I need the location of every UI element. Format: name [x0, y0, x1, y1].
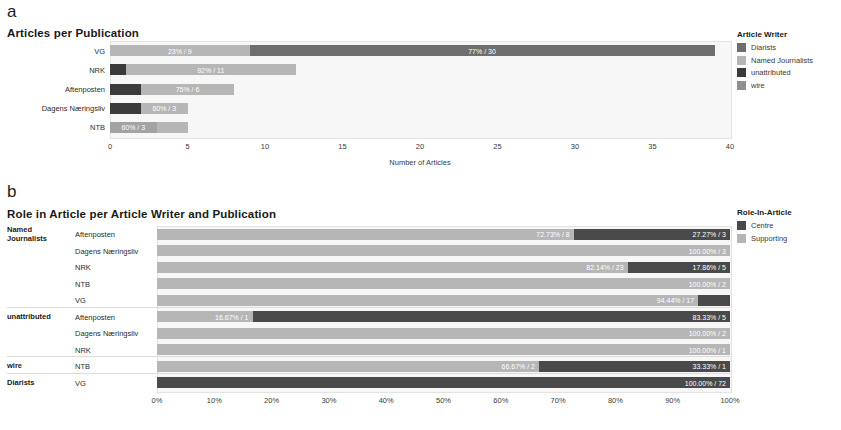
panel-b-group-separator [7, 373, 730, 374]
panel-b-x-tick-label: 70% [551, 396, 566, 405]
panel-b-bar-segment[interactable]: 66.67% / 2 [157, 361, 539, 372]
panel-a-legend-swatch-icon [737, 68, 746, 77]
panel-a-legend-swatch-icon [737, 43, 746, 52]
panel-b-bar-segment-label: 100.00% / 1 [689, 346, 726, 353]
panel-a-bar-segment[interactable] [110, 103, 141, 114]
panel-b-group-label: unattributed [7, 312, 51, 321]
panel-a-bar-row[interactable]: 60% / 3 [110, 103, 730, 114]
panel-a-x-tick-label: 25 [493, 142, 501, 151]
panel-b-bar-segment[interactable]: 27.27% / 3 [574, 229, 730, 240]
panel-b-bar-segment[interactable]: 16.67% / 1 [157, 311, 253, 322]
panel-a-legend-item[interactable]: Named Journalists [737, 56, 813, 65]
panel-b-bar-row[interactable]: 100.00% / 3 [157, 245, 730, 256]
panel-a-legend-label: unattributed [751, 68, 791, 77]
panel-b-bar-segment-label: 82.14% / 23 [586, 264, 623, 271]
panel-a-bar-row[interactable]: 23% / 977% / 30 [110, 45, 730, 56]
panel-a-bar-segment-label: 92% / 11 [126, 66, 297, 73]
panel-a-bar-segment[interactable]: 60% / 3 [141, 103, 188, 114]
panel-b-legend-item[interactable]: Supporting [737, 234, 792, 243]
panel-a-legend-label: Named Journalists [751, 56, 813, 65]
panel-b-bar-segment-label: 27.27% / 3 [693, 231, 726, 238]
panel-b-publication-label: NTB [75, 362, 90, 371]
panel-b-bar-segment[interactable]: 100.00% / 2 [157, 278, 730, 289]
panel-b-group-separator [7, 356, 730, 357]
panel-a-bar-segment[interactable]: 75% / 6 [141, 84, 234, 95]
panel-a-x-tick-label: 30 [571, 142, 579, 151]
panel-b-bar-segment[interactable]: 100.00% / 72 [157, 377, 730, 388]
panel-b-bar-segment[interactable]: 82.14% / 23 [157, 262, 628, 273]
panel-b-bar-row[interactable]: 100.00% / 72 [157, 377, 730, 388]
panel-b-publication-label: NRK [75, 263, 91, 272]
panel-b-bar-segment[interactable]: 94.44% / 17 [157, 295, 698, 306]
panel-b-bar-segment[interactable]: 100.00% / 3 [157, 245, 730, 256]
panel-b-bar-segment[interactable]: 100.00% / 2 [157, 328, 730, 339]
panel-b-publication-label: Dagens Næringsliv [75, 329, 138, 338]
panel-b-legend-label: Centre [751, 221, 774, 230]
panel-a-bar-row[interactable]: 75% / 6 [110, 84, 730, 95]
panel-a-bar-segment[interactable]: 92% / 11 [126, 64, 297, 75]
panel-b-x-tick-label: 90% [665, 396, 680, 405]
panel-b-legend-swatch-icon [737, 221, 746, 230]
panel-a-x-axis-label: Number of Articles [110, 158, 730, 167]
panel-a-bar-segment[interactable] [110, 64, 126, 75]
panel-a-bar-segment[interactable]: 77% / 30 [250, 45, 715, 56]
panel-b-bar-segment-label: 100.00% / 3 [689, 247, 726, 254]
panel-a-legend: Article Writer DiaristsNamed Journalists… [737, 30, 813, 93]
panel-b-bar-row[interactable]: 66.67% / 233.33% / 1 [157, 361, 730, 372]
panel-b-bar-segment[interactable]: 33.33% / 1 [539, 361, 730, 372]
panel-b-group-label: NamedJournalists [7, 225, 47, 243]
panel-b-bar-segment-label: 66.67% / 2 [502, 363, 535, 370]
panel-b-bar-segment[interactable] [698, 295, 730, 306]
panel-b-bar-row[interactable]: 16.67% / 183.33% / 5 [157, 311, 730, 322]
panel-b-publication-label: NRK [75, 345, 91, 354]
panel-a-bar-segment[interactable]: 60% / 3 [110, 122, 157, 133]
panel-b-group-label: Diarists [7, 378, 35, 387]
panel-b-bar-segment[interactable]: 72.73% / 8 [157, 229, 574, 240]
panel-a-category-label: NRK [0, 65, 105, 74]
panel-a-bar-segment-label: 23% / 9 [110, 47, 250, 54]
panel-a-legend-label: wire [751, 81, 765, 90]
panel-b-bar-row[interactable]: 94.44% / 17 [157, 295, 730, 306]
panel-a-legend-item[interactable]: Diarists [737, 43, 813, 52]
panel-b-bar-row[interactable]: 100.00% / 1 [157, 344, 730, 355]
panel-b-bar-segment-label: 100.00% / 2 [689, 280, 726, 287]
panel-a-bar-segment[interactable] [157, 122, 188, 133]
panel-a-category-label: NTB [0, 123, 105, 132]
panel-a-category-label: VG [0, 46, 105, 55]
panel-b-bar-segment-label: 33.33% / 1 [693, 363, 726, 370]
panel-b-bar-segment-label: 16.67% / 1 [215, 313, 248, 320]
panel-a-bar-row[interactable]: 92% / 11 [110, 64, 730, 75]
panel-b: b Role in Article per Article Writer and… [0, 178, 841, 430]
panel-b-bar-segment-label: 100.00% / 72 [685, 379, 726, 386]
panel-a-category-label: Aftenposten [0, 85, 105, 94]
panel-b-legend-label: Supporting [751, 234, 787, 243]
panel-a-bar-segment-label: 77% / 30 [250, 47, 715, 54]
panel-b-publication-label: VG [75, 296, 86, 305]
panel-a-legend-label: Diarists [751, 43, 776, 52]
panel-a-x-tick-label: 5 [185, 142, 189, 151]
panel-b-bar-segment[interactable]: 100.00% / 1 [157, 344, 730, 355]
panel-a-bar-segment[interactable] [110, 84, 141, 95]
panel-a-legend-item[interactable]: unattributed [737, 68, 813, 77]
panel-b-bar-row[interactable]: 82.14% / 2317.86% / 5 [157, 262, 730, 273]
panel-b-bar-segment-label: 94.44% / 17 [657, 297, 694, 304]
panel-a-legend-title: Article Writer [737, 30, 813, 39]
panel-b-publication-label: VG [75, 378, 86, 387]
panel-b-bar-segment[interactable]: 83.33% / 5 [253, 311, 730, 322]
panel-a-letter: a [7, 2, 16, 22]
panel-b-bar-segment[interactable]: 17.86% / 5 [628, 262, 730, 273]
panel-b-bar-row[interactable]: 72.73% / 827.27% / 3 [157, 229, 730, 240]
panel-b-bar-segment-label: 17.86% / 5 [693, 264, 726, 271]
panel-a-bar-row[interactable]: 60% / 3 [110, 122, 730, 133]
panel-b-publication-label: Aftenposten [75, 230, 115, 239]
panel-a-bar-segment[interactable]: 23% / 9 [110, 45, 250, 56]
panel-a-bar-segment-label: 60% / 3 [110, 124, 157, 131]
panel-a-category-label: Dagens Næringsliv [0, 104, 105, 113]
panel-b-bar-row[interactable]: 100.00% / 2 [157, 278, 730, 289]
panel-b-x-tick-label: 30% [321, 396, 336, 405]
panel-b-x-tick-label: 100% [720, 396, 739, 405]
panel-b-publication-label: Dagens Næringsliv [75, 246, 138, 255]
panel-a-legend-item[interactable]: wire [737, 81, 813, 90]
panel-b-bar-row[interactable]: 100.00% / 2 [157, 328, 730, 339]
panel-b-legend-item[interactable]: Centre [737, 221, 792, 230]
